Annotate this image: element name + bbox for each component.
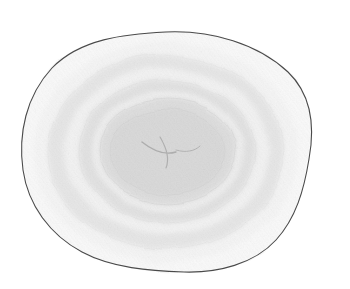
paper-grain-texture <box>0 0 350 289</box>
sketch-canvas <box>0 0 350 289</box>
contour-sketch-illustration <box>0 0 350 289</box>
